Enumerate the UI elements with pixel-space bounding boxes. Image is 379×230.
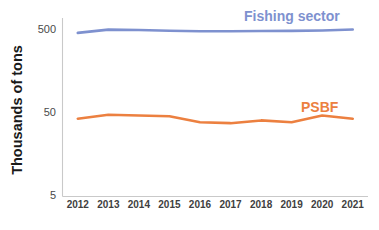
x-tick-label-2021: 2021 [342,199,365,210]
series-label-psbf: PSBF [301,99,339,115]
x-tick-label-2014: 2014 [128,199,151,210]
y-tick-label-50: 50 [44,106,56,118]
line-chart: 500 50 5 Thousands of tons 2012201320142… [0,0,379,230]
x-tick-label-2015: 2015 [158,199,181,210]
x-tick-label-2016: 2016 [189,199,212,210]
series-line-psbf [78,115,353,123]
y-tick-label-500: 500 [38,23,56,35]
y-axis-title: Thousands of tons [9,45,25,175]
x-tick-label-2020: 2020 [311,199,334,210]
x-tick-label-2018: 2018 [250,199,273,210]
x-tick-label-2019: 2019 [281,199,304,210]
y-tick-label-5: 5 [50,189,56,201]
series-label-fishing-sector: Fishing sector [244,8,340,24]
chart-container: 500 50 5 Thousands of tons 2012201320142… [0,0,379,230]
x-tick-label-2012: 2012 [67,199,90,210]
x-axis-tick-labels: 2012201320142015201620172018201920202021 [67,199,365,210]
series-line-fishing-sector [78,30,353,33]
x-tick-label-2013: 2013 [97,199,120,210]
x-tick-label-2017: 2017 [219,199,242,210]
